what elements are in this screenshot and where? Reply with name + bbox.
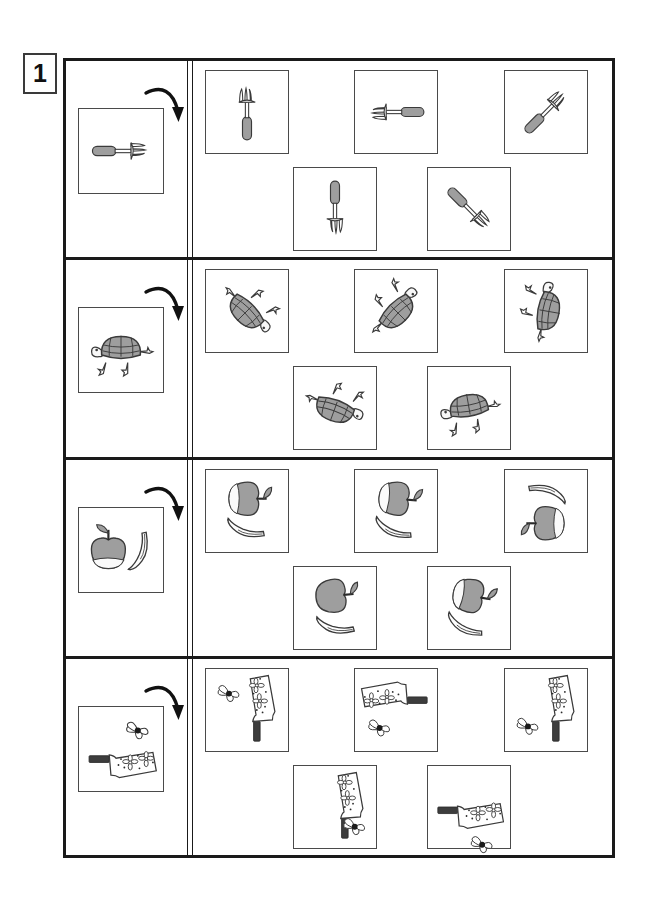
- prompt-cell-brush-bee: [66, 659, 188, 855]
- option-fork-4[interactable]: [293, 167, 377, 251]
- prompt-cell-apple-banana: [66, 460, 188, 656]
- brush-bee-icon-2: [355, 669, 437, 751]
- option-apple-banana-5[interactable]: [427, 566, 511, 650]
- brush-bee-icon-1: [206, 669, 288, 751]
- bee: [517, 718, 538, 734]
- option-apple-banana-2[interactable]: [354, 469, 438, 553]
- rotation-arrow-icon: [144, 81, 188, 135]
- option-brush-bee-1[interactable]: [205, 668, 289, 752]
- fork-icon-1: [206, 71, 288, 153]
- turtle-icon-2: [355, 270, 437, 352]
- apple-banana-icon-3: [505, 470, 587, 552]
- options-cell-apple-banana: [193, 460, 612, 656]
- worksheet-row-brush-bee: [66, 659, 612, 855]
- apple-banana-icon-4: [294, 567, 376, 649]
- apple-banana-icon-1: [206, 470, 288, 552]
- brush-bee-icon-4: [294, 766, 376, 848]
- turtle-icon-1: [206, 270, 288, 352]
- fork-icon-3: [505, 71, 587, 153]
- rotation-arrow-icon: [144, 280, 188, 334]
- option-turtle-4[interactable]: [293, 366, 377, 450]
- apple-banana-icon-5: [428, 567, 510, 649]
- rotation-arrow-icon: [144, 480, 188, 534]
- options-cell-brush-bee: [193, 659, 612, 855]
- option-turtle-2[interactable]: [354, 269, 438, 353]
- rotation-arrow-icon: [144, 679, 188, 733]
- fork-icon-5: [428, 168, 510, 250]
- apple-banana-icon-2: [355, 470, 437, 552]
- option-brush-bee-2[interactable]: [354, 668, 438, 752]
- option-brush-bee-3[interactable]: [504, 668, 588, 752]
- option-apple-banana-4[interactable]: [293, 566, 377, 650]
- brush-bee-icon-5: [428, 766, 510, 848]
- option-fork-1[interactable]: [205, 70, 289, 154]
- brush-bee-icon-3: [505, 669, 587, 751]
- option-fork-3[interactable]: [504, 70, 588, 154]
- prompt-cell-turtle: [66, 260, 188, 456]
- worksheet-row-apple-banana: [66, 460, 612, 659]
- option-fork-5[interactable]: [427, 167, 511, 251]
- option-turtle-5[interactable]: [427, 366, 511, 450]
- options-cell-fork: [193, 61, 612, 257]
- option-turtle-1[interactable]: [205, 269, 289, 353]
- bee: [471, 836, 492, 852]
- worksheet-table: [63, 58, 615, 858]
- option-apple-banana-3[interactable]: [504, 469, 588, 553]
- option-fork-2[interactable]: [354, 70, 438, 154]
- fork-icon-4: [294, 168, 376, 250]
- worksheet-row-turtle: [66, 260, 612, 459]
- option-apple-banana-1[interactable]: [205, 469, 289, 553]
- page-number-badge: 1: [23, 53, 57, 94]
- options-cell-turtle: [193, 260, 612, 456]
- turtle-icon-3: [505, 270, 587, 352]
- turtle-icon-5: [428, 367, 510, 449]
- worksheet-row-fork: [66, 61, 612, 260]
- option-brush-bee-4[interactable]: [293, 765, 377, 849]
- option-turtle-3[interactable]: [504, 269, 588, 353]
- option-brush-bee-5[interactable]: [427, 765, 511, 849]
- prompt-cell-fork: [66, 61, 188, 257]
- bee: [369, 720, 390, 736]
- turtle-icon-4: [294, 367, 376, 449]
- fork-icon-2: [355, 71, 437, 153]
- bee: [218, 685, 239, 701]
